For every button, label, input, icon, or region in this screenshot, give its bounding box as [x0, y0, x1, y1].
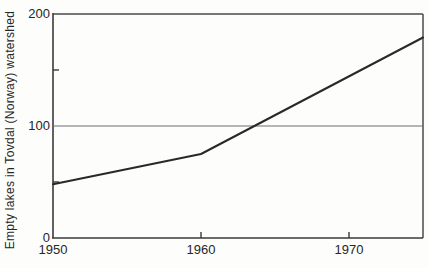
- plot-area: [0, 0, 429, 268]
- x-tick-label-1970: 1970: [324, 242, 374, 258]
- x-tick-label-1950: 1950: [28, 242, 78, 258]
- y-tick-label-100: 100: [26, 118, 50, 134]
- y-tick-label-200: 200: [26, 6, 50, 22]
- x-tick-label-1960: 1960: [176, 242, 226, 258]
- line-chart-figure: Empty lakes in Tovdal (Norway) watershed…: [0, 0, 429, 268]
- data-line: [53, 38, 423, 185]
